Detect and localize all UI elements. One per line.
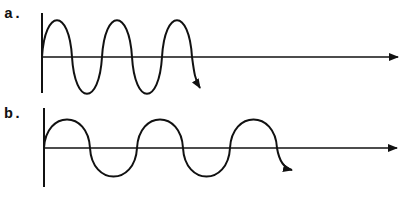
panel-b	[44, 108, 397, 187]
panel-a	[42, 13, 398, 94]
wave-diagram	[0, 0, 415, 197]
